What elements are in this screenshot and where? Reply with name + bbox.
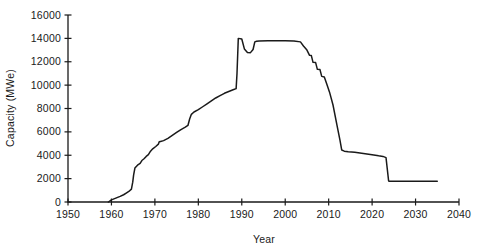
- y-axis-ticks: 0200040006000800010000120001400016000: [31, 9, 72, 208]
- y-tick-label: 12000: [31, 55, 61, 67]
- capacity-line-chart: 0200040006000800010000120001400016000 19…: [0, 0, 492, 249]
- capacity-series-line: [108, 38, 437, 202]
- y-tick-label: 0: [55, 196, 61, 208]
- x-tick-label: 1990: [230, 208, 254, 220]
- y-tick-label: 8000: [37, 102, 61, 114]
- x-tick-label: 2030: [403, 208, 427, 220]
- x-tick-label: 1980: [186, 208, 210, 220]
- y-tick-label: 10000: [31, 79, 61, 91]
- y-tick-label: 6000: [37, 125, 61, 137]
- x-tick-label: 2000: [273, 208, 297, 220]
- y-axis-title: Capacity (MWe): [4, 69, 16, 147]
- chart-figure: 0200040006000800010000120001400016000 19…: [0, 0, 492, 249]
- y-tick-label: 16000: [31, 9, 61, 21]
- x-tick-label: 2040: [447, 208, 471, 220]
- x-tick-label: 2010: [317, 208, 341, 220]
- x-tick-label: 1950: [56, 208, 80, 220]
- x-tick-label: 1960: [99, 208, 123, 220]
- axis-lines: [68, 15, 459, 202]
- y-tick-label: 4000: [37, 149, 61, 161]
- y-tick-label: 2000: [37, 172, 61, 184]
- y-tick-label: 14000: [31, 32, 61, 44]
- x-tick-label: 2020: [360, 208, 384, 220]
- x-axis-title: Year: [253, 233, 275, 245]
- x-tick-label: 1970: [143, 208, 167, 220]
